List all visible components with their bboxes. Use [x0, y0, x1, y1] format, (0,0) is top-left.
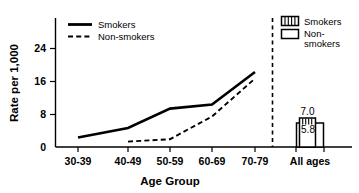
- x-category-label-40-49: 40-49: [115, 155, 142, 167]
- legend-label-non-smokers-line: Non-smokers: [98, 31, 155, 42]
- x-category-label-70-79: 70-79: [242, 155, 269, 167]
- y-axis-title: Rate per 1,000: [8, 44, 20, 122]
- x-category-label-50-59: 50-59: [157, 155, 184, 167]
- legend-label-non-smokers-bar-line2: smokers: [304, 38, 340, 49]
- bar-value-non-smokers: 5.8: [301, 124, 315, 135]
- legend-label-smokers-bar: Smokers: [304, 16, 342, 27]
- smoking-rate-line-chart: 24 16 8 0 Rate per 1,000 30-39 40-49 50-…: [0, 0, 359, 193]
- y-tick-label-0: 0: [40, 141, 46, 153]
- x-axis-title: Age Group: [140, 175, 199, 187]
- legend-label-smokers-line: Smokers: [98, 19, 136, 30]
- chart-container: 24 16 8 0 Rate per 1,000 30-39 40-49 50-…: [0, 0, 359, 193]
- y-tick-label-16: 16: [34, 75, 46, 87]
- bar-value-smokers: 7.0: [301, 106, 315, 117]
- y-tick-label-24: 24: [34, 42, 46, 54]
- x-category-label-all-ages: All ages: [290, 155, 330, 167]
- series-line-smokers: [78, 72, 255, 138]
- legend-swatch-smokers-bar: [282, 17, 299, 26]
- legend-swatch-non-smokers-bar: [282, 30, 299, 39]
- y-tick-label-8: 8: [40, 108, 46, 120]
- x-category-label-60-69: 60-69: [199, 155, 226, 167]
- x-category-label-30-39: 30-39: [65, 155, 92, 167]
